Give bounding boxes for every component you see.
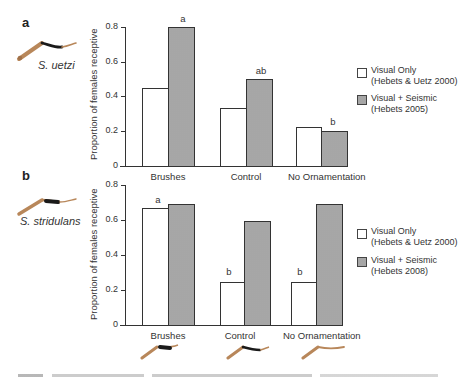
tick-label: 0.4 (96, 249, 118, 259)
tick-mark (121, 27, 125, 28)
tick-label: 0.8 (96, 179, 118, 189)
bar-b-noorn-seismic (316, 204, 343, 326)
significance-letter: a (173, 13, 193, 24)
tick-label: 0.4 (96, 90, 118, 100)
tick-mark (121, 290, 125, 291)
category-label: Brushes (148, 171, 188, 182)
category-label: No Ornamentation (288, 171, 358, 182)
category-label: Control (220, 330, 260, 341)
bar-a-brushes-seismic (168, 27, 195, 167)
species-label-a: S. uetzi (38, 59, 75, 71)
species-label-b: S. stridulans (20, 215, 81, 227)
bar-b-brushes-visual (142, 208, 169, 326)
tick-label: 0.8 (96, 21, 118, 31)
no-ornament-leg-icon (301, 344, 345, 360)
y-axis-b (125, 185, 126, 325)
significance-letter: b (323, 116, 343, 127)
legend-entry-seismic-b: Visual + Seismic (Hebets 2008) (371, 255, 437, 277)
legend-text: (Hebets 2005) (371, 104, 437, 115)
tick-mark (121, 220, 125, 221)
legend-swatch-visual (357, 229, 367, 239)
bar-a-noorn-seismic (321, 131, 348, 167)
significance-letter: ab (251, 65, 271, 76)
tick-mark (121, 96, 125, 97)
significance-letter: b (290, 266, 310, 277)
tick-mark (121, 255, 125, 256)
tick-label: 0.6 (96, 56, 118, 66)
panel-b-label: b (22, 168, 30, 183)
bar-a-control-visual (220, 108, 247, 167)
legend-text: Visual Only (371, 65, 458, 76)
significance-letter: a (148, 194, 168, 205)
legend-swatch-visual (357, 68, 367, 78)
legend-text: (Hebets 2008) (371, 266, 437, 277)
tick-label: 0 (96, 319, 118, 329)
bar-b-control-visual (220, 282, 245, 326)
tick-mark (121, 62, 125, 63)
tick-mark (121, 131, 125, 132)
brush-leg-icon (140, 342, 182, 360)
significance-letter: b (219, 266, 239, 277)
legend-entry-seismic-a: Visual + Seismic (Hebets 2005) (371, 93, 437, 115)
bar-b-control-seismic (244, 221, 271, 326)
legend-text: Visual Only (371, 226, 458, 237)
category-label: No Ornamentation (283, 330, 353, 341)
legend-swatch-seismic (357, 95, 367, 105)
panel-a-label: a (22, 15, 29, 30)
legend-text: (Hebets & Uetz 2000) (371, 237, 458, 248)
bar-b-brushes-seismic (168, 204, 195, 326)
y-axis-a (125, 27, 126, 166)
category-label: Control (226, 171, 266, 182)
spider-leg-icon (16, 193, 78, 217)
legend-entry-visual-b: Visual Only (Hebets & Uetz 2000) (371, 226, 458, 248)
control-leg-icon (226, 344, 270, 360)
category-label: Brushes (148, 330, 188, 341)
bar-a-brushes-visual (142, 88, 169, 167)
bar-b-noorn-visual (291, 282, 317, 326)
tick-mark (121, 185, 125, 186)
legend-text: Visual + Seismic (371, 93, 437, 104)
legend-text: (Hebets & Uetz 2000) (371, 76, 458, 87)
tick-label: 0.6 (96, 214, 118, 224)
legend-swatch-seismic (357, 257, 367, 267)
legend-text: Visual + Seismic (371, 255, 437, 266)
bar-a-noorn-visual (296, 127, 322, 167)
bar-a-control-seismic (246, 79, 273, 167)
legend-entry-visual-a: Visual Only (Hebets & Uetz 2000) (371, 65, 458, 87)
tick-label: 0.2 (96, 125, 118, 135)
tick-label: 0.2 (96, 284, 118, 294)
tick-label: 0 (96, 160, 118, 170)
